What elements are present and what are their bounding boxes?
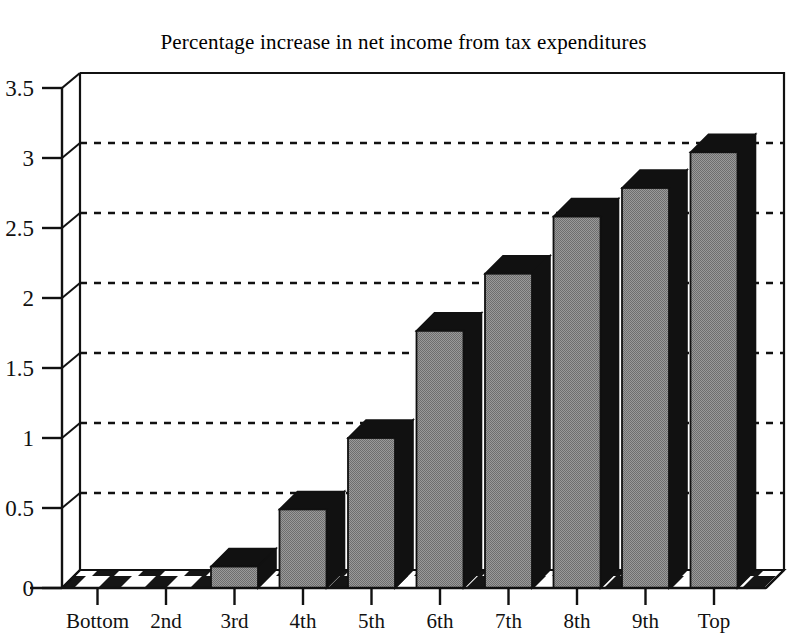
bar-side-face xyxy=(464,313,482,588)
bar-4th[interactable] xyxy=(280,491,345,588)
bar-side-face xyxy=(395,420,413,588)
x-tick-label: 2nd xyxy=(150,609,182,633)
bar-series xyxy=(211,134,756,588)
bar-side-face xyxy=(327,491,345,588)
x-tick-label: 6th xyxy=(427,609,454,633)
x-axis-ticks xyxy=(98,588,715,605)
y-tick-label: 1 xyxy=(23,426,35,451)
bar-6th[interactable] xyxy=(417,313,482,588)
bar-front-face xyxy=(280,509,327,588)
bar-9th[interactable] xyxy=(622,170,687,588)
x-tick-label: 7th xyxy=(495,609,522,633)
y-axis-tick-labels: 3.5 3 2.5 2 1.5 1 0.5 0 xyxy=(5,76,34,601)
y-tick-label: 2 xyxy=(23,286,35,311)
bar-front-face xyxy=(622,188,669,588)
bar-side-face xyxy=(601,199,619,588)
bar-side-face xyxy=(532,256,550,588)
bar-chart-plot: 3.5 3 2.5 2 1.5 1 0.5 0 Bottom2nd3rd4th5… xyxy=(0,0,807,643)
x-tick-label: Top xyxy=(698,609,730,633)
bar-7th[interactable] xyxy=(485,256,550,588)
bar-front-face xyxy=(554,217,601,588)
x-tick-label: 8th xyxy=(564,609,591,633)
x-axis-tick-labels: Bottom2nd3rd4th5th6th7th8th9thTop xyxy=(66,609,730,633)
bar-front-face xyxy=(691,152,738,588)
bar-front-face xyxy=(348,438,395,588)
chart-container: Percentage increase in net income from t… xyxy=(0,0,807,643)
x-tick-label: 3rd xyxy=(221,609,249,633)
bar-5th[interactable] xyxy=(348,420,413,588)
y-tick-label: 3 xyxy=(23,146,35,171)
bar-front-face xyxy=(485,274,532,588)
bar-front-face xyxy=(417,331,464,588)
x-tick-label: 9th xyxy=(632,609,659,633)
bar-8th[interactable] xyxy=(554,199,619,588)
bar-side-face xyxy=(669,170,687,588)
bar-side-face xyxy=(738,134,756,588)
x-tick-label: 4th xyxy=(290,609,317,633)
y-tick-label: 2.5 xyxy=(5,216,34,241)
bar-front-face xyxy=(211,567,258,588)
y-tick-label: 1.5 xyxy=(5,356,34,381)
bar-top[interactable] xyxy=(691,134,756,588)
y-tick-label: 0.5 xyxy=(5,496,34,521)
x-tick-label: Bottom xyxy=(66,609,129,633)
x-tick-label: 5th xyxy=(358,609,385,633)
y-tick-label: 3.5 xyxy=(5,76,34,101)
